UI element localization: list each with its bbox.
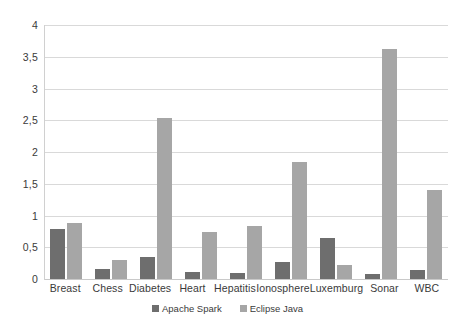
bar-group (358, 25, 403, 279)
bar[interactable] (320, 238, 335, 279)
x-axis-tick-label: Diabetes (129, 282, 171, 294)
bar[interactable] (185, 272, 200, 279)
legend-swatch-icon (240, 305, 247, 312)
bar[interactable] (95, 269, 110, 279)
y-axis-tick-label: 3 (4, 83, 38, 95)
bar[interactable] (382, 49, 397, 280)
x-axis-tick-label: WBC (406, 282, 448, 294)
bar[interactable] (337, 265, 352, 279)
y-axis-tick-label: 0 (4, 273, 38, 285)
chart-legend: Apache SparkEclipse Java (0, 303, 455, 314)
y-axis-tick-label: 1,5 (4, 178, 38, 190)
legend-item[interactable]: Apache Spark (152, 303, 222, 314)
y-axis-tick-label: 4 (4, 19, 38, 31)
bar[interactable] (67, 223, 82, 279)
bar-group (403, 25, 448, 279)
bar[interactable] (247, 226, 262, 279)
bar-chart: 00,511,522,533,54 BreastChessDiabetesHea… (0, 0, 455, 324)
legend-label: Apache Spark (162, 303, 222, 314)
bar-group (179, 25, 224, 279)
bar[interactable] (427, 190, 442, 279)
x-axis-tick-label: Breast (44, 282, 86, 294)
bar[interactable] (112, 260, 127, 279)
bar[interactable] (365, 274, 380, 279)
y-axis-tick-label: 1 (4, 210, 38, 222)
legend-label: Eclipse Java (250, 303, 303, 314)
bar[interactable] (50, 229, 65, 279)
bar[interactable] (202, 232, 217, 279)
bar-groups (44, 25, 448, 279)
bar-group (89, 25, 134, 279)
bar[interactable] (410, 270, 425, 279)
x-axis-tick-label: Heart (171, 282, 213, 294)
legend-swatch-icon (152, 305, 159, 312)
legend-item[interactable]: Eclipse Java (240, 303, 303, 314)
x-axis-tick-label: Ionosphere (256, 282, 310, 294)
gridline (44, 279, 448, 280)
bar[interactable] (140, 257, 155, 279)
bar[interactable] (275, 262, 290, 279)
bar[interactable] (157, 118, 172, 279)
bar[interactable] (230, 273, 245, 279)
bar-group (224, 25, 269, 279)
bar-group (44, 25, 89, 279)
x-axis-tick-labels: BreastChessDiabetesHeartHepatitisIonosph… (44, 282, 448, 294)
x-axis-tick-label: Luxemburg (310, 282, 363, 294)
bar-group (313, 25, 358, 279)
y-axis-tick-label: 2 (4, 146, 38, 158)
y-axis-tick-label: 3,5 (4, 51, 38, 63)
bar-group (268, 25, 313, 279)
bar-group (134, 25, 179, 279)
bar[interactable] (292, 162, 307, 279)
x-axis-tick-label: Hepatitis (214, 282, 256, 294)
x-axis-tick-label: Chess (86, 282, 128, 294)
y-axis-tick-labels: 00,511,522,533,54 (0, 25, 38, 279)
y-axis-tick-label: 0,5 (4, 241, 38, 253)
y-axis-tick-label: 2,5 (4, 114, 38, 126)
x-axis-tick-label: Sonar (363, 282, 405, 294)
